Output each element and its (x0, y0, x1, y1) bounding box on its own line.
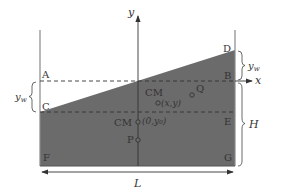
point-p (136, 138, 140, 142)
tilted-fluid-container-diagram: y x A B C D E F G CM (x,y) Q CM (0,y₀) P… (0, 0, 285, 191)
cm-lower-label: CM (114, 117, 132, 128)
left-brace-yw-label: yw (14, 91, 27, 104)
y-axis-label: y (127, 6, 135, 19)
right-brace-yw (238, 51, 245, 80)
right-brace-h (238, 83, 245, 166)
right-brace-yw-label: yw (247, 60, 260, 73)
point-f-label: F (43, 152, 50, 163)
fluid-region (40, 50, 235, 166)
point-e-label: E (224, 116, 231, 127)
point-g-label: G (224, 152, 232, 163)
cm-lower-point (136, 120, 140, 124)
cm-upper-label: CM (145, 87, 163, 98)
point-d-label: D (223, 43, 231, 54)
left-brace-yw (29, 82, 36, 112)
cm-lower-coords: (0,y₀) (142, 116, 167, 126)
x-axis-label: x (255, 74, 262, 87)
point-b-label: B (224, 70, 231, 81)
point-p-label: P (127, 134, 134, 145)
point-c-label: C (42, 101, 50, 112)
point-a-label: A (41, 69, 50, 80)
width-dimension-label: L (133, 177, 141, 190)
cm-upper-coords: (x,y) (161, 98, 182, 108)
point-q-label: Q (196, 83, 204, 94)
right-brace-h-label[interactable]: H (248, 118, 259, 131)
